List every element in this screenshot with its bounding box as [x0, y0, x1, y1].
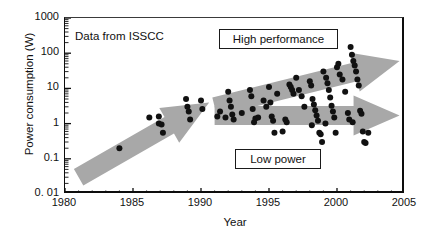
data-point	[296, 87, 302, 93]
data-point	[315, 118, 321, 124]
data-point	[358, 111, 364, 117]
data-point	[309, 122, 315, 128]
data-point	[214, 113, 220, 119]
data-point	[335, 61, 341, 67]
data-point	[312, 107, 318, 113]
data-point	[290, 91, 296, 97]
data-point	[227, 98, 233, 104]
data-point	[270, 118, 276, 124]
data-point	[352, 62, 358, 68]
data-point	[225, 89, 231, 95]
data-point	[222, 114, 228, 120]
data-point	[255, 114, 261, 120]
annotation-low-power: Low power	[235, 149, 321, 169]
data-point	[284, 119, 290, 125]
data-point	[320, 69, 326, 75]
data-point	[350, 119, 356, 125]
data-point	[329, 103, 335, 109]
data-point	[156, 113, 162, 119]
data-point	[248, 93, 254, 99]
data-point	[310, 96, 316, 102]
annotation-high-performance: High performance	[219, 29, 338, 49]
data-point	[326, 87, 332, 93]
data-point	[231, 117, 237, 123]
data-point	[116, 145, 122, 151]
x-tick-label: 2005	[384, 196, 424, 208]
data-point	[228, 104, 234, 110]
data-point	[160, 130, 166, 136]
data-point	[314, 112, 320, 118]
data-point	[324, 80, 330, 86]
data-point	[146, 114, 152, 120]
x-tick-label: 2000	[316, 196, 356, 208]
figure-root: 0. 010.11101001000 Power consumption (W)…	[0, 0, 430, 243]
data-point	[323, 75, 329, 81]
data-point	[251, 119, 257, 125]
data-point	[199, 106, 205, 112]
data-point	[311, 101, 317, 107]
x-tick-label: 1995	[248, 196, 288, 208]
data-point	[339, 76, 345, 82]
data-point	[293, 75, 299, 81]
data-point	[198, 98, 204, 104]
data-point	[345, 110, 351, 116]
data-point	[319, 139, 325, 145]
data-point	[349, 52, 355, 58]
data-point	[186, 109, 192, 115]
data-point	[263, 104, 269, 110]
data-point	[274, 91, 280, 97]
data-point	[267, 99, 273, 105]
data-point	[333, 130, 339, 136]
data-point	[159, 121, 165, 127]
data-point	[250, 106, 256, 112]
data-point	[356, 83, 362, 89]
x-axis-title: Year	[195, 216, 275, 228]
x-tick-label: 1985	[112, 196, 152, 208]
data-point	[354, 76, 360, 82]
data-point	[327, 95, 333, 101]
data-point	[365, 130, 371, 136]
data-point	[280, 128, 286, 134]
data-point	[261, 98, 267, 104]
data-point	[363, 140, 369, 146]
data-point	[239, 110, 245, 116]
data-point	[299, 93, 305, 99]
data-point	[318, 131, 324, 137]
x-tick-label: 1980	[44, 196, 84, 208]
plot-area: Data from ISSCC High performance Low pow…	[64, 17, 404, 193]
data-point	[247, 87, 253, 93]
data-source-note: Data from ISSCC	[75, 30, 164, 42]
data-point	[331, 114, 337, 120]
data-point	[271, 130, 277, 136]
data-point	[360, 128, 366, 134]
overall-trend-arrow	[74, 102, 209, 185]
data-point	[183, 96, 189, 102]
data-point	[301, 104, 307, 110]
data-point	[187, 117, 193, 123]
data-point	[330, 109, 336, 115]
data-point	[322, 121, 328, 127]
y-axis-title: Power consumption (W)	[23, 19, 35, 169]
data-point	[308, 83, 314, 89]
data-point	[348, 44, 354, 50]
x-tick-label: 1990	[180, 196, 220, 208]
data-point	[266, 84, 272, 90]
data-point	[342, 89, 348, 95]
data-point	[353, 69, 359, 75]
x-axis-tick-labels: 198019851990199520002005	[0, 196, 430, 216]
